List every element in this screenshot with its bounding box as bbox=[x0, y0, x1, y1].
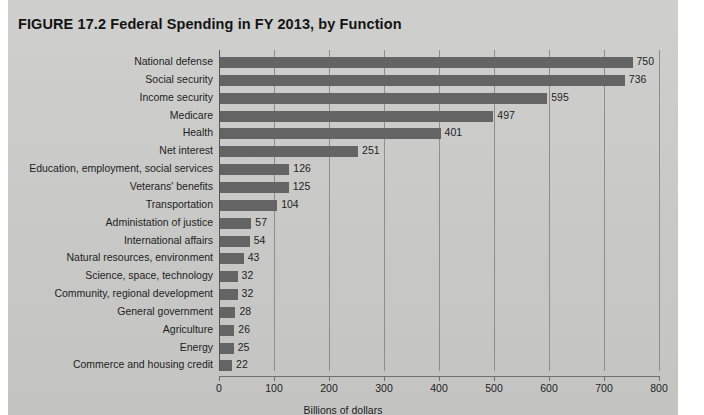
bar-value-label: 401 bbox=[445, 126, 463, 139]
bar-category-label: Community, regional development bbox=[13, 287, 213, 300]
bar-value-label: 251 bbox=[362, 144, 380, 157]
bar-value-label: 54 bbox=[254, 234, 266, 247]
bar bbox=[220, 128, 441, 139]
bar-category-label: Natural resources, environment bbox=[13, 251, 213, 264]
bar-value-label: 736 bbox=[629, 73, 647, 86]
bar-row: Education, employment, social services12… bbox=[8, 162, 678, 180]
bar-category-label: General government bbox=[13, 305, 213, 318]
bar-category-label: Health bbox=[13, 126, 213, 139]
bar-row: Veterans' benefits125 bbox=[8, 180, 678, 198]
bar-value-label: 22 bbox=[236, 358, 248, 371]
bar-row: Energy25 bbox=[8, 341, 678, 359]
bar-category-label: Energy bbox=[13, 341, 213, 354]
bar-category-label: Income security bbox=[13, 91, 213, 104]
tick-mark-700 bbox=[604, 376, 605, 381]
bar-category-label: Transportation bbox=[13, 198, 213, 211]
bar bbox=[220, 75, 625, 86]
bar-value-label: 104 bbox=[281, 198, 299, 211]
bar-row: Community, regional development32 bbox=[8, 287, 678, 305]
tick-mark-400 bbox=[439, 376, 440, 381]
bar-row: Administation of justice57 bbox=[8, 216, 678, 234]
bar bbox=[220, 271, 238, 282]
bar-row: Natural resources, environment43 bbox=[8, 251, 678, 269]
bar-value-label: 28 bbox=[239, 305, 251, 318]
bar bbox=[220, 236, 250, 247]
tick-mark-0 bbox=[219, 376, 220, 381]
bar-chart: National defense750Social security736Inc… bbox=[8, 50, 678, 415]
x-tick-label: 500 bbox=[474, 382, 514, 394]
bar-row: Commerce and housing credit22 bbox=[8, 358, 678, 376]
figure-title: FIGURE 17.2 Federal Spending in FY 2013,… bbox=[18, 16, 402, 32]
bar-category-label: Veterans' benefits bbox=[13, 180, 213, 193]
x-tick-label: 600 bbox=[529, 382, 569, 394]
bar-category-label: Social security bbox=[13, 73, 213, 86]
bar-value-label: 57 bbox=[255, 216, 267, 229]
bar-value-label: 32 bbox=[242, 287, 254, 300]
bar bbox=[220, 146, 358, 157]
bar bbox=[220, 325, 234, 336]
x-tick-label: 800 bbox=[639, 382, 679, 394]
figure-panel: FIGURE 17.2 Federal Spending in FY 2013,… bbox=[8, 0, 678, 415]
bar-category-label: Net interest bbox=[13, 144, 213, 157]
bar-row: National defense750 bbox=[8, 55, 678, 73]
bar-category-label: Education, employment, social services bbox=[13, 162, 213, 175]
x-axis-title: Billions of dollars bbox=[8, 404, 678, 415]
x-tick-label: 200 bbox=[309, 382, 349, 394]
bar-category-label: Commerce and housing credit bbox=[13, 358, 213, 371]
bar-row: Income security595 bbox=[8, 91, 678, 109]
bar-category-label: International affairs bbox=[13, 234, 213, 247]
tick-mark-500 bbox=[494, 376, 495, 381]
bar-category-label: National defense bbox=[13, 55, 213, 68]
bar-row: Net interest251 bbox=[8, 144, 678, 162]
bar bbox=[220, 200, 277, 211]
tick-mark-200 bbox=[329, 376, 330, 381]
x-tick-label: 700 bbox=[584, 382, 624, 394]
bar bbox=[220, 57, 633, 68]
bar bbox=[220, 164, 289, 175]
bar-row: Health401 bbox=[8, 126, 678, 144]
bar bbox=[220, 289, 238, 300]
bar-category-label: Agriculture bbox=[13, 323, 213, 336]
bar-value-label: 125 bbox=[293, 180, 311, 193]
bar-row: Medicare497 bbox=[8, 109, 678, 127]
bar-value-label: 43 bbox=[248, 251, 260, 264]
bar bbox=[220, 253, 244, 264]
x-tick-label: 400 bbox=[419, 382, 459, 394]
bar-value-label: 126 bbox=[293, 162, 311, 175]
bar-row: General government28 bbox=[8, 305, 678, 323]
bar-row: Transportation104 bbox=[8, 198, 678, 216]
bar-value-label: 32 bbox=[242, 269, 254, 282]
x-tick-label: 300 bbox=[364, 382, 404, 394]
bar-category-label: Administation of justice bbox=[13, 216, 213, 229]
bar-category-label: Science, space, technology bbox=[13, 269, 213, 282]
tick-mark-600 bbox=[549, 376, 550, 381]
bar-value-label: 497 bbox=[497, 109, 515, 122]
bar bbox=[220, 218, 251, 229]
x-tick-label: 100 bbox=[254, 382, 294, 394]
bar-value-label: 750 bbox=[637, 55, 655, 68]
figure-page: FIGURE 17.2 Federal Spending in FY 2013,… bbox=[0, 0, 704, 415]
bar-row: International affairs54 bbox=[8, 234, 678, 252]
tick-mark-800 bbox=[659, 376, 660, 381]
bar-row: Social security736 bbox=[8, 73, 678, 91]
bar-category-label: Medicare bbox=[13, 109, 213, 122]
bar-row: Agriculture26 bbox=[8, 323, 678, 341]
bar bbox=[220, 93, 547, 104]
page-right-margin bbox=[678, 0, 704, 415]
tick-mark-300 bbox=[384, 376, 385, 381]
x-tick-label: 0 bbox=[199, 382, 239, 394]
bar-value-label: 26 bbox=[238, 323, 250, 336]
bar-row: Science, space, technology32 bbox=[8, 269, 678, 287]
bar bbox=[220, 360, 232, 371]
bar-value-label: 25 bbox=[238, 341, 250, 354]
page-left-margin bbox=[0, 0, 8, 415]
bar-value-label: 595 bbox=[551, 91, 569, 104]
bar bbox=[220, 343, 234, 354]
bar bbox=[220, 182, 289, 193]
bar bbox=[220, 307, 235, 318]
tick-mark-100 bbox=[274, 376, 275, 381]
bar bbox=[220, 111, 493, 122]
